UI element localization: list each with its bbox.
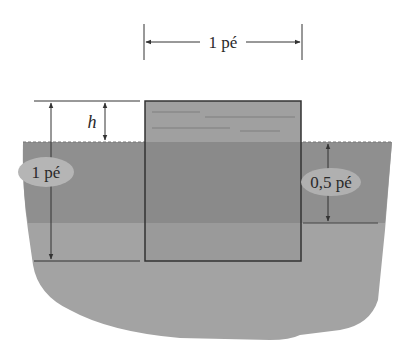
h-dimension: h	[88, 103, 106, 140]
height-label: 1 pé	[32, 163, 61, 182]
width-dimension: 1 pé	[144, 24, 302, 60]
h-label: h	[88, 112, 97, 132]
diagram-canvas: 1 pé 1 pé h 0,5 pé	[0, 0, 412, 360]
width-label: 1 pé	[209, 33, 238, 52]
submerged-label: 0,5 pé	[310, 173, 352, 192]
floating-block	[145, 101, 301, 261]
floating-block-diagram: 1 pé 1 pé h 0,5 pé	[0, 0, 412, 360]
